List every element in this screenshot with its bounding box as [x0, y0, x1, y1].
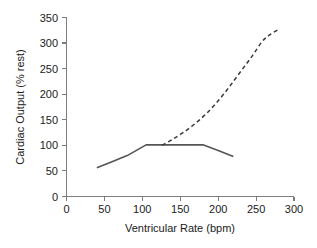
x-axis-title: Ventricular Rate (bpm)	[125, 222, 235, 234]
x-tick-label-50: 50	[98, 203, 110, 215]
cardiac-output-line-chart: 350 300 250 200 150 100 50 0 0 50 100	[0, 0, 317, 248]
chart-figure: 350 300 250 200 150 100 50 0 0 50 100	[0, 0, 317, 248]
x-tick-label-0: 0	[63, 203, 69, 215]
x-tick-label-150: 150	[171, 203, 189, 215]
y-axis-title: Cardiac Output (% rest)	[14, 49, 26, 165]
x-tick-label-200: 200	[209, 203, 227, 215]
y-tick-label-350: 350	[40, 12, 58, 24]
series-line-dashed	[162, 29, 279, 145]
y-tick-label-0: 0	[52, 191, 58, 203]
x-axis-ticks: 0 50 100 150 200 250 300	[63, 197, 303, 216]
y-tick-label-250: 250	[40, 63, 58, 75]
y-tick-label-200: 200	[40, 88, 58, 100]
series-line-solid	[97, 145, 234, 168]
y-tick-label-300: 300	[40, 37, 58, 49]
x-tick-label-250: 250	[247, 203, 265, 215]
y-tick-label-50: 50	[46, 165, 58, 177]
y-axis-ticks: 350 300 250 200 150 100 50 0	[40, 12, 67, 203]
y-tick-label-150: 150	[40, 114, 58, 126]
x-tick-label-300: 300	[285, 203, 303, 215]
x-tick-label-100: 100	[133, 203, 151, 215]
y-tick-label-100: 100	[40, 139, 58, 151]
